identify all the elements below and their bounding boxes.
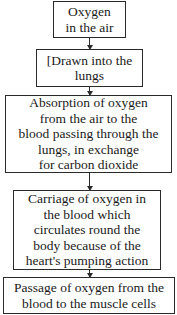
step-drawn-into-lungs: [Drawn into the lungs [36, 49, 143, 87]
step-carriage: Carriage of oxygen in the blood which ci… [13, 190, 161, 270]
step-label: [Drawn into the lungs [47, 53, 132, 84]
arrow-down-icon [89, 38, 90, 49]
arrow-down-icon [89, 270, 90, 277]
step-absorption: Absorption of oxygen from the air to the… [5, 95, 172, 173]
arrow-down-icon [89, 87, 90, 95]
step-label: Oxygen in the air [66, 4, 114, 35]
step-label: Carriage of oxygen in the blood which ci… [26, 191, 148, 269]
step-oxygen-in-air: Oxygen in the air [53, 1, 126, 38]
step-label: Absorption of oxygen from the air to the… [19, 95, 159, 173]
arrow-down-icon [89, 173, 90, 190]
step-passage: Passage of oxygen from the blood to the … [3, 277, 175, 314]
step-label: Passage of oxygen from the blood to the … [14, 280, 164, 311]
